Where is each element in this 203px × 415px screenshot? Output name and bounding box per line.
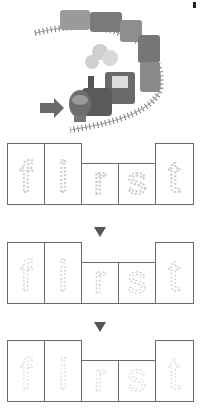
down-triangle-icon: [94, 322, 106, 332]
svg-text:r: r: [94, 263, 107, 301]
train-car-2: [90, 12, 122, 32]
svg-text:i: i: [58, 350, 68, 398]
letter-box-r[interactable]: r: [81, 360, 119, 402]
svg-text:r: r: [94, 361, 107, 399]
letter-box-s[interactable]: s: [118, 163, 156, 205]
letter-box-i[interactable]: i: [44, 340, 82, 402]
letter-box-t[interactable]: t: [155, 340, 194, 402]
svg-text:t: t: [168, 349, 180, 398]
letter-box-f[interactable]: f: [7, 340, 45, 402]
svg-text:i: i: [58, 252, 68, 300]
svg-text:t: t: [168, 152, 180, 201]
svg-text:f: f: [20, 350, 33, 398]
svg-text:s: s: [128, 361, 147, 399]
letter-box-i[interactable]: i: [44, 143, 82, 205]
letter-box-s[interactable]: s: [118, 360, 156, 402]
letter-box-s[interactable]: s: [118, 262, 156, 304]
letter-box-i[interactable]: i: [44, 242, 82, 304]
letter-box-r[interactable]: r: [81, 163, 119, 205]
right-arrow-icon: [40, 98, 64, 118]
svg-text:s: s: [128, 164, 147, 202]
svg-text:f: f: [20, 252, 33, 300]
svg-text:r: r: [94, 164, 107, 202]
trace-row-2: f i r s t: [7, 242, 194, 304]
trace-row-3: f i r s t: [7, 340, 194, 402]
svg-text:t: t: [168, 251, 180, 300]
svg-text:f: f: [20, 153, 33, 201]
train-car-1: [60, 10, 90, 30]
train-illustration: [0, 0, 203, 140]
down-triangle-icon: [94, 227, 106, 237]
letter-box-f[interactable]: f: [7, 143, 45, 205]
letter-box-r[interactable]: r: [81, 262, 119, 304]
svg-text:s: s: [128, 263, 147, 301]
corner-mark: [193, 2, 196, 8]
trace-row-1: f i r s t: [7, 143, 194, 205]
letter-box-t[interactable]: t: [155, 143, 194, 205]
svg-text:i: i: [58, 153, 68, 201]
letter-box-f[interactable]: f: [7, 242, 45, 304]
letter-box-t[interactable]: t: [155, 242, 194, 304]
